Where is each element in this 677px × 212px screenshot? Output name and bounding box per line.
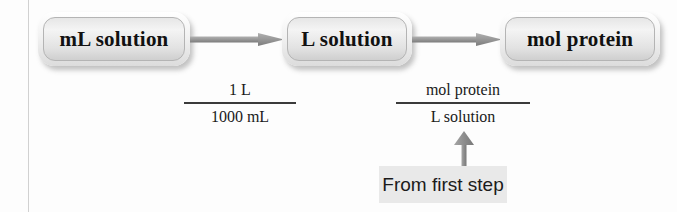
flow-node-inner: mL solution [43, 17, 185, 61]
conversion-factor-numerator: 1 L [184, 79, 296, 100]
annotation-label: From first step [382, 174, 503, 196]
flow-node-label: mL solution [60, 27, 169, 52]
flow-node-l-solution: L solution [282, 12, 412, 66]
flow-node-inner: L solution [287, 17, 407, 61]
conversion-factor-1: 1 L 1000 mL [184, 79, 296, 127]
arrow-right-icon-2 [412, 33, 502, 46]
arrow-right-icon-1 [190, 33, 284, 46]
flow-node-ml-solution: mL solution [38, 12, 190, 66]
fraction-bar [184, 102, 296, 104]
flow-node-label: mol protein [527, 27, 633, 52]
conversion-factor-denominator: 1000 mL [184, 106, 296, 127]
flow-node-mol-protein: mol protein [500, 12, 660, 66]
flow-node-inner: mol protein [505, 17, 655, 61]
arrow-up-icon [452, 131, 476, 171]
annotation-from-first-step: From first step [379, 166, 507, 203]
conversion-factor-2: mol protein L solution [396, 79, 530, 127]
diagram-canvas: mL solution L solution [0, 0, 677, 212]
conversion-factor-denominator: L solution [396, 106, 530, 127]
page-margin-rule [28, 0, 29, 212]
conversion-factor-numerator: mol protein [396, 79, 530, 100]
fraction-bar [396, 102, 530, 104]
flow-node-label: L solution [301, 27, 392, 52]
